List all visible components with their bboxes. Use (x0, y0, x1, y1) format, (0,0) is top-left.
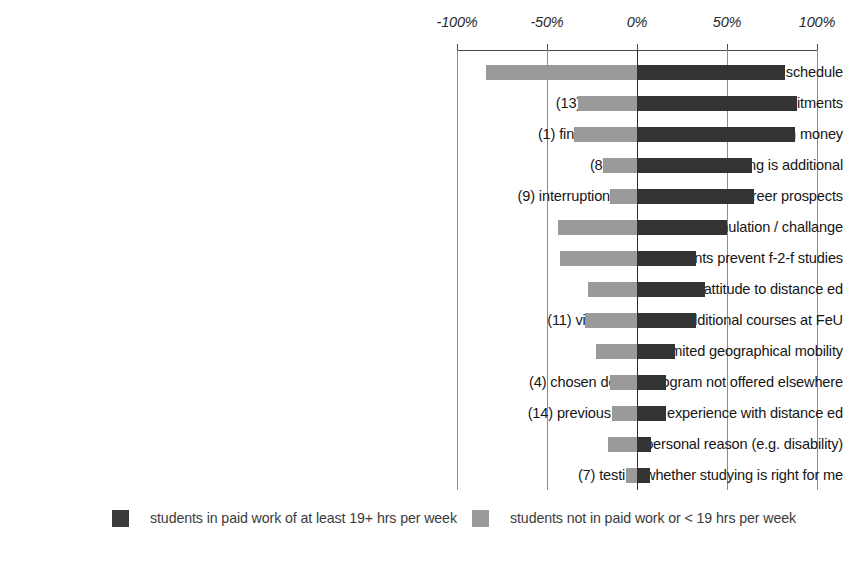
bar-segment-paid-work (637, 344, 675, 359)
chart-row: (1) financial need / must continue to ea… (0, 119, 857, 150)
bar-segment-paid-work (637, 220, 727, 235)
chart-row: (2) flexibility of time / no classroom s… (0, 57, 857, 88)
chart-row: (7) testing whether studying is right fo… (0, 460, 857, 491)
legend-label-paid-work: students in paid work of at least 19+ hr… (150, 510, 457, 526)
bar-segment-not-paid-work (610, 375, 637, 390)
chart-row: (14) previous positive experience with d… (0, 398, 857, 429)
axis-tick-label-50: 50% (713, 14, 741, 30)
bar-segment-not-paid-work (588, 282, 637, 297)
chart-rows: (2) flexibility of time / no classroom s… (0, 57, 857, 491)
chart-row: (4) chosen degree program not offered el… (0, 367, 857, 398)
bar-segment-paid-work (637, 96, 797, 111)
bar-segment-paid-work (637, 282, 705, 297)
legend-item-not-paid-work: students not in paid work or < 19 hrs pe… (472, 505, 796, 531)
bar-segment-not-paid-work (612, 406, 637, 421)
diverging-bar-chart: -100% -50% 0% 50% 100% (2) flexibility o… (0, 0, 857, 573)
chart-row: (13) more compatible with work commitmen… (0, 88, 857, 119)
bar-segment-paid-work (637, 468, 650, 483)
axis-tick-label-zero: 0% (627, 14, 648, 30)
chart-row: (5) intellectual stimulation / challange (0, 212, 857, 243)
bar-segment-paid-work (637, 437, 651, 452)
chart-row: (12) personal reason (e.g. disability) (0, 429, 857, 460)
legend-swatch-light (472, 510, 489, 527)
bar-segment-paid-work (637, 375, 666, 390)
axis-tick-label-minus-50: -50% (530, 14, 563, 30)
legend-item-paid-work: students in paid work of at least 19+ hr… (112, 505, 457, 531)
bar-segment-not-paid-work (596, 344, 637, 359)
bar-segment-paid-work (637, 158, 752, 173)
bar-segment-paid-work (637, 406, 666, 421)
category-label: (12) personal reason (e.g. disability) (467, 429, 857, 460)
bar-segment-not-paid-work (560, 251, 637, 266)
chart-row: (11) visiting student / additional cours… (0, 305, 857, 336)
bar-segment-not-paid-work (610, 189, 637, 204)
chart-row: (8) job comes first, studying is additio… (0, 150, 857, 181)
chart-row: (6) positive attitude to distance ed (0, 274, 857, 305)
bar-segment-paid-work (637, 251, 696, 266)
chart-row: (9) interruption of worl jeopardizes car… (0, 181, 857, 212)
legend-swatch-dark (112, 510, 129, 527)
x-axis-tick-labels: -100% -50% 0% 50% 100% (0, 14, 857, 36)
legend-label-not-paid-work: students not in paid work or < 19 hrs pe… (510, 510, 796, 526)
bar-segment-not-paid-work (585, 313, 637, 328)
bar-segment-not-paid-work (626, 468, 637, 483)
chart-legend: students in paid work of at least 19+ hr… (0, 505, 857, 535)
bar-segment-not-paid-work (558, 220, 637, 235)
category-label: (7) testing whether studying is right fo… (467, 460, 857, 491)
chart-row: (10) limited geographical mobility (0, 336, 857, 367)
bar-segment-not-paid-work (486, 65, 637, 80)
bar-segment-not-paid-work (574, 127, 637, 142)
bar-segment-paid-work (637, 65, 785, 80)
chart-row: (3) family commitments prevent f-2-f stu… (0, 243, 857, 274)
axis-tick-label-100: 100% (799, 14, 835, 30)
bar-segment-not-paid-work (603, 158, 637, 173)
axis-tick-label-minus-100: -100% (437, 14, 478, 30)
bar-segment-paid-work (637, 127, 795, 142)
bar-segment-not-paid-work (608, 437, 637, 452)
bar-segment-paid-work (637, 189, 754, 204)
bar-segment-not-paid-work (578, 96, 637, 111)
bar-segment-paid-work (637, 313, 696, 328)
